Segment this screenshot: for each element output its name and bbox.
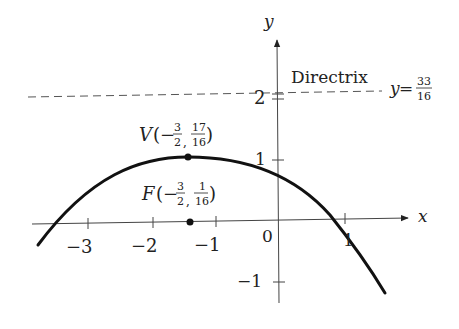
y-tick-label: 1: [255, 149, 266, 169]
svg-text:,: ,: [183, 135, 187, 149]
svg-text:=: =: [399, 78, 413, 98]
svg-text:1: 1: [199, 180, 206, 193]
vertex-label: V ( − 3 2 , 17 16 ): [139, 121, 213, 149]
svg-text:): ): [209, 183, 216, 204]
parabola-curve: [38, 157, 385, 293]
y-axis-label: y: [263, 11, 274, 31]
svg-text:33: 33: [417, 75, 431, 88]
x-tick-label: −2: [131, 235, 158, 256]
svg-text:16: 16: [417, 90, 431, 103]
y-tick-label: 2: [254, 87, 265, 108]
x-axis-label: x: [418, 206, 428, 226]
x-tick-label: −3: [66, 236, 93, 257]
x-tick-label: −1: [194, 234, 221, 255]
svg-text:−: −: [163, 183, 178, 204]
svg-text:,: ,: [186, 194, 190, 208]
svg-text:V: V: [139, 124, 154, 145]
focus-point: [187, 219, 194, 226]
vertex-point: [185, 154, 192, 161]
directrix-label: Directrix: [291, 67, 368, 87]
svg-text:): ): [206, 124, 213, 145]
x-tick-label: 1: [343, 230, 354, 250]
directrix-line: [28, 91, 382, 97]
svg-text:2: 2: [177, 195, 184, 208]
y-tick-label: −1: [237, 271, 262, 291]
svg-text:−: −: [160, 124, 175, 145]
parabola-diagram: y x −3 −2 −1 0 1 2 1 −1 Directrix y = 33…: [0, 0, 459, 329]
svg-text:3: 3: [174, 121, 181, 134]
x-tick-label: 0: [262, 226, 273, 246]
directrix-equation: y = 33 16: [389, 75, 432, 103]
svg-text:16: 16: [192, 136, 206, 149]
svg-text:F: F: [141, 183, 156, 204]
svg-text:16: 16: [195, 195, 209, 208]
svg-text:(: (: [156, 183, 163, 204]
y-axis: [277, 40, 279, 303]
svg-text:2: 2: [174, 136, 181, 149]
x-ticks: [88, 213, 345, 229]
focus-label: F ( − 3 2 , 1 16 ): [141, 180, 216, 208]
svg-text:3: 3: [177, 180, 184, 193]
svg-text:(: (: [153, 124, 160, 145]
svg-text:17: 17: [192, 121, 206, 134]
